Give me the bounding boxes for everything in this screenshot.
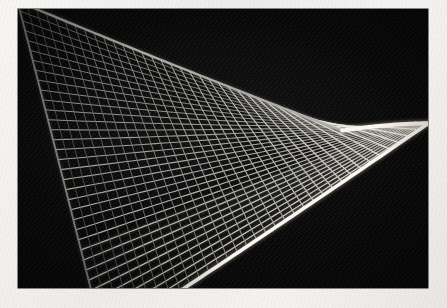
photograph [18,9,428,288]
saddle-surface-mesh [18,9,428,288]
photo-page [0,0,447,308]
